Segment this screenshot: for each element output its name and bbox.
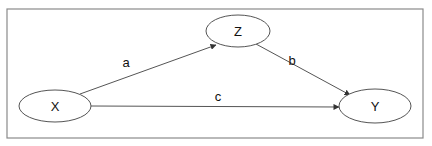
node-z: Z <box>206 15 270 47</box>
node-x: X <box>19 90 91 122</box>
node-label-x: X <box>51 99 60 114</box>
edge-b: b <box>256 44 350 95</box>
edges: abc <box>80 44 350 107</box>
edge-c: c <box>91 89 339 107</box>
arrow-c <box>91 106 339 107</box>
arrow-b <box>256 44 350 95</box>
node-label-z: Z <box>234 24 242 39</box>
edge-label-c: c <box>215 89 222 104</box>
edge-a: a <box>80 45 216 94</box>
arrow-a <box>80 45 216 94</box>
edge-label-a: a <box>122 55 130 70</box>
node-y: Y <box>339 89 411 123</box>
node-label-y: Y <box>371 99 380 114</box>
edge-label-b: b <box>288 53 295 68</box>
path-diagram: abc XZY <box>0 0 432 146</box>
